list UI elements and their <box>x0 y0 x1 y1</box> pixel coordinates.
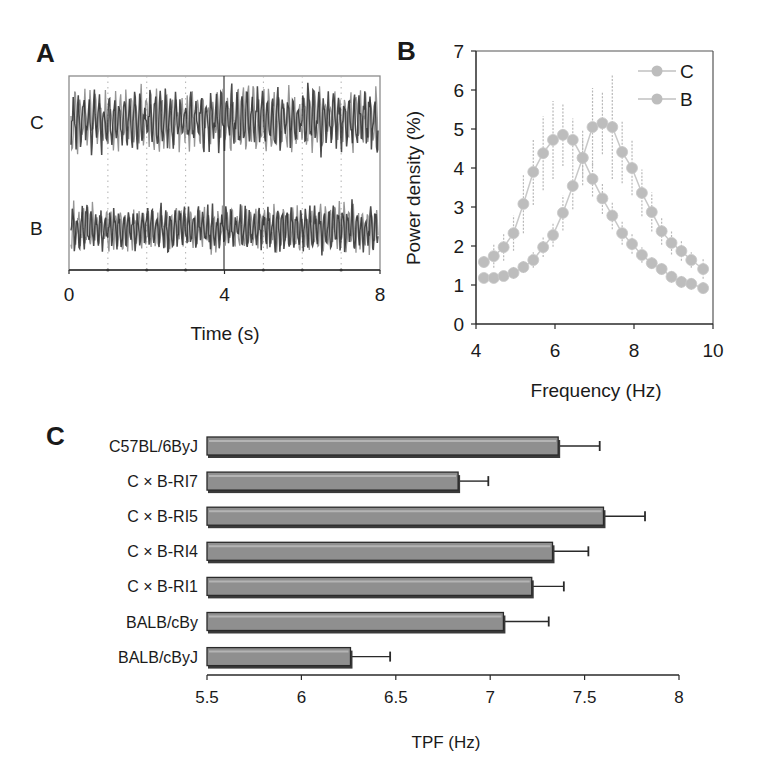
panel-b-legend: C B <box>638 61 694 110</box>
bar <box>207 472 458 490</box>
panel-b-power-spectrum: B 01234567 46810 Power density (%) Frequ… <box>397 36 724 401</box>
x-tick-label: 6.5 <box>384 688 408 707</box>
bar <box>207 613 503 631</box>
category-label: C × B-RI5 <box>127 508 198 525</box>
data-point-marker <box>567 180 578 191</box>
legend-entry-b: B <box>638 89 693 110</box>
y-tick-label: 1 <box>453 275 464 296</box>
panel-c-bars: C57BL/6ByJC × B-RI7C × B-RI5C × B-RI4C ×… <box>109 437 645 669</box>
data-point-marker <box>656 226 667 237</box>
legend-marker-b-icon <box>652 94 663 105</box>
series-line <box>484 135 703 288</box>
panel-c-x-axis-title: TPF (Hz) <box>412 733 481 752</box>
y-tick-label: 4 <box>453 158 464 179</box>
x-tick-label: 8 <box>674 688 683 707</box>
x-tick-label: 7.5 <box>573 688 597 707</box>
data-point-marker <box>646 207 657 218</box>
x-tick-label: 4 <box>471 340 482 361</box>
data-point-marker <box>686 278 697 289</box>
y-tick-label: 2 <box>453 236 464 257</box>
category-label: BALB/cByJ <box>118 649 198 666</box>
y-tick-label: 5 <box>453 119 464 140</box>
series-line <box>484 123 703 278</box>
category-label: C57BL/6ByJ <box>109 438 198 455</box>
panel-b-x-ticks: 46810 <box>471 324 724 361</box>
data-point-marker <box>478 256 489 267</box>
legend-label-b: B <box>680 89 693 110</box>
bar-row: C57BL/6ByJ <box>109 437 600 458</box>
figure: A C B 048 Time (s) B 01234567 46810 Powe… <box>0 0 758 771</box>
bar <box>207 577 532 595</box>
data-point-marker <box>488 272 499 283</box>
data-point-marker <box>557 129 568 140</box>
data-point-marker <box>538 148 549 159</box>
category-label: C × B-RI4 <box>127 543 198 560</box>
data-point-marker <box>548 230 559 241</box>
bar <box>207 507 603 525</box>
x-tick-label: 8 <box>375 284 386 305</box>
data-point-marker <box>498 242 509 253</box>
data-point-marker <box>617 147 628 158</box>
data-point-marker <box>488 251 499 262</box>
panel-b-x-axis-title: Frequency (Hz) <box>531 380 662 401</box>
x-tick-label: 10 <box>702 340 723 361</box>
data-point-marker <box>676 246 687 257</box>
data-point-marker <box>508 267 519 278</box>
data-point-marker <box>666 237 677 248</box>
data-point-marker <box>567 134 578 145</box>
data-point-marker <box>617 228 628 239</box>
data-point-marker <box>686 255 697 266</box>
data-point-marker <box>636 187 647 198</box>
data-point-marker <box>636 249 647 260</box>
data-point-marker <box>508 228 519 239</box>
panel-b-series <box>478 75 708 294</box>
bar <box>207 648 350 666</box>
y-tick-label: 0 <box>453 314 464 335</box>
data-point-marker <box>548 134 559 145</box>
x-tick-label: 0 <box>64 284 75 305</box>
x-tick-label: 4 <box>219 284 230 305</box>
x-tick-label: 5.5 <box>195 688 219 707</box>
category-label: BALB/cBy <box>126 614 198 631</box>
y-tick-label: 7 <box>453 41 464 62</box>
data-point-marker <box>666 271 677 282</box>
data-point-marker <box>698 264 709 275</box>
data-point-marker <box>698 283 709 294</box>
bar-row: C × B-RI1 <box>127 577 564 598</box>
legend-label-c: C <box>680 61 694 82</box>
panel-b-letter: B <box>397 36 416 66</box>
legend-entry-c: C <box>638 61 694 82</box>
bar-row: BALB/cBy <box>126 613 549 634</box>
data-point-marker <box>587 173 598 184</box>
data-point-marker <box>597 118 608 129</box>
category-label: C × B-RI1 <box>127 578 198 595</box>
x-tick-label: 6 <box>297 688 306 707</box>
panel-a-eeg-traces: A C B 048 Time (s) <box>30 38 385 344</box>
data-point-marker <box>577 152 588 163</box>
bar-row: C × B-RI4 <box>127 542 588 563</box>
panel-c-x-ticks: 5.566.577.58 <box>195 675 684 707</box>
data-point-marker <box>557 207 568 218</box>
data-point-marker <box>607 210 618 221</box>
bar <box>207 542 553 560</box>
legend-marker-c-icon <box>652 66 663 77</box>
x-tick-label: 8 <box>629 340 640 361</box>
y-tick-label: 3 <box>453 197 464 218</box>
bar-row: C × B-RI5 <box>127 507 645 528</box>
panel-b-y-ticks: 01234567 <box>453 41 476 335</box>
data-point-marker <box>538 242 549 253</box>
panel-a-row-label-c: C <box>30 112 44 133</box>
data-point-marker <box>518 262 529 273</box>
bar-row: BALB/cByJ <box>118 648 390 669</box>
data-point-marker <box>587 122 598 133</box>
panel-c-tpf-bars: C C57BL/6ByJC × B-RI7C × B-RI5C × B-RI4C… <box>46 421 684 752</box>
data-point-marker <box>528 166 539 177</box>
data-point-marker <box>478 272 489 283</box>
panel-b-y-axis-title: Power density (%) <box>403 111 424 265</box>
y-tick-label: 6 <box>453 80 464 101</box>
data-point-marker <box>528 255 539 266</box>
panel-a-x-ticks: 048 <box>64 270 386 305</box>
data-point-marker <box>597 193 608 204</box>
data-point-marker <box>656 264 667 275</box>
category-label: C × B-RI7 <box>127 473 198 490</box>
